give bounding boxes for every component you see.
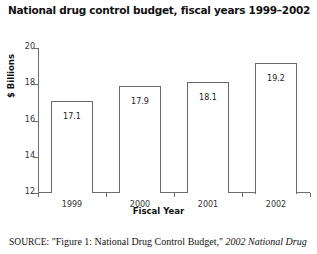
- source-text: "Figure 1: National Drug Control Budget,…: [49, 236, 225, 247]
- y-tick-label: 18: [25, 78, 35, 87]
- y-tick: 16: [38, 121, 39, 122]
- chart-title: National drug control budget, fiscal yea…: [8, 4, 308, 16]
- y-tick: 18: [38, 84, 39, 85]
- bar: 19.2: [255, 63, 297, 194]
- x-tick-mark: [242, 193, 243, 197]
- x-tick-mark: [38, 193, 39, 197]
- bar: 18.1: [187, 82, 229, 193]
- y-tick: 20: [38, 48, 39, 49]
- chart-figure: National drug control budget, fiscal yea…: [0, 0, 317, 254]
- x-tick-mark: [310, 193, 311, 197]
- bar-value-label: 17.9: [120, 97, 160, 106]
- bar-value-label: 17.1: [52, 112, 92, 121]
- x-axis-title: Fiscal Year: [0, 206, 317, 216]
- bar: 17.9: [119, 86, 161, 193]
- y-axis-title: $ Billions: [6, 54, 16, 98]
- bar: 17.1: [51, 101, 93, 193]
- y-tick-label: 20: [25, 42, 35, 51]
- x-tick-mark: [106, 193, 107, 197]
- source-label: SOURCE:: [9, 237, 49, 247]
- plot-area: 1214161820 17.117.918.119.2 199920002001…: [38, 48, 310, 193]
- x-tick-mark: [174, 193, 175, 197]
- source-publication: 2002 National Drug: [226, 236, 307, 247]
- bar-value-label: 19.2: [256, 74, 296, 83]
- y-tick-label: 16: [25, 115, 35, 124]
- y-tick-label: 14: [25, 151, 35, 160]
- y-tick-label: 12: [25, 187, 35, 196]
- source-note: SOURCE: "Figure 1: National Drug Control…: [9, 236, 317, 247]
- y-tick: 14: [38, 157, 39, 158]
- bar-value-label: 18.1: [188, 93, 228, 102]
